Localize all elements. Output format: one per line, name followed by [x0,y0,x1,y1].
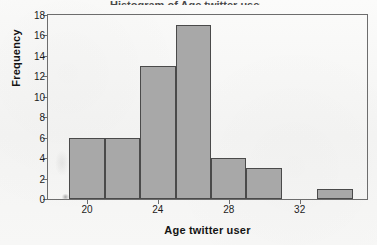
y-tick-label: 8 [0,112,45,123]
histogram-bar [246,168,281,199]
y-tick-label: 16 [0,30,45,41]
x-tick-label: 28 [209,204,249,215]
histogram-bar [140,66,175,199]
y-tick-label: 6 [0,132,45,143]
y-tick-label: 12 [0,71,45,82]
y-tick-label: 18 [0,10,45,21]
y-tick-label: 2 [0,173,45,184]
histogram-bar [211,158,246,199]
x-tick-label: 20 [67,204,107,215]
histogram-screenshot: Histogram of Age twitter user 0246810121… [0,0,377,245]
y-tick-label: 14 [0,50,45,61]
histogram-bar [317,189,352,199]
y-tick-label: 4 [0,153,45,164]
y-axis-title: Frequency [10,0,22,118]
x-tick-label: 24 [138,204,178,215]
x-tick-label: 32 [280,204,320,215]
plot-area: 024681012141618 20242832 [48,15,367,199]
histogram-bar [69,138,104,199]
x-axis-title: Age twitter user [47,224,368,236]
histogram-bar [105,138,140,199]
y-tick-label: 10 [0,91,45,102]
chart-title-cropped: Histogram of Age twitter user [110,0,260,5]
histogram-bar [176,25,211,199]
y-tick-label: 0 [0,194,45,205]
